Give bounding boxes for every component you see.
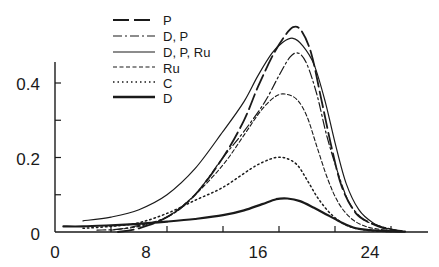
y-tick-label-0: 0	[31, 225, 40, 244]
chart-canvas: 0 0.2 0.4 0 8 16 24 P D, P D, P, Ru Ru C…	[0, 0, 439, 267]
y-tick-label-0-2: 0.2	[16, 150, 40, 169]
x-tick-label-24: 24	[361, 243, 380, 262]
x-tick-label-16: 16	[249, 243, 268, 262]
legend-label-p: P	[163, 13, 172, 28]
legend-label-c: C	[163, 76, 172, 91]
legend: P D, P D, P, Ru Ru C D	[113, 13, 210, 106]
legend-label-d-p-ru: D, P, Ru	[163, 45, 210, 60]
series-line-p	[118, 27, 398, 232]
series-line-d-p	[97, 53, 402, 232]
y-tick-label-0-4: 0.4	[16, 75, 40, 94]
x-tick-label-8: 8	[141, 243, 150, 262]
data-series	[63, 27, 405, 232]
legend-label-d: D	[163, 91, 172, 106]
legend-label-d-p: D, P	[163, 29, 188, 44]
legend-label-ru: Ru	[163, 61, 180, 76]
axes: 0 0.2 0.4 0 8 16 24	[16, 62, 428, 262]
x-tick-label-0: 0	[50, 243, 59, 262]
series-line-ru	[111, 94, 394, 231]
series-line-d-p-ru	[83, 38, 402, 231]
